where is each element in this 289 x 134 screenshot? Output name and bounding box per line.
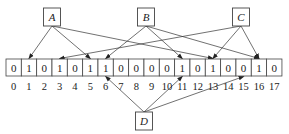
index-label: 8 xyxy=(134,81,139,92)
node-label: D xyxy=(139,115,148,127)
bit-value: 0 xyxy=(226,62,232,74)
index-label: 1 xyxy=(26,81,31,92)
index-label: 16 xyxy=(254,81,265,92)
bit-value: 1 xyxy=(210,62,216,74)
bit-value: 1 xyxy=(57,62,63,74)
bit-value: 1 xyxy=(256,62,262,74)
edge-c-to-3 xyxy=(60,26,241,59)
bit-cell: 1 xyxy=(21,59,36,76)
bit-array-diagram: 010101100001010010 012345678910111213141… xyxy=(0,0,289,134)
bit-value: 0 xyxy=(149,62,155,74)
edge-c-to-13 xyxy=(213,26,241,59)
index-label: 11 xyxy=(177,81,187,92)
index-label: 15 xyxy=(238,81,249,92)
bit-cell: 0 xyxy=(129,59,144,76)
edge-c-to-16 xyxy=(241,26,259,59)
edge-b-to-6 xyxy=(106,26,146,59)
bit-cell: 1 xyxy=(251,59,266,76)
index-label: 3 xyxy=(57,81,62,92)
bit-value: 0 xyxy=(134,62,140,74)
edge-a-to-1 xyxy=(29,26,52,59)
node-a: A xyxy=(44,8,61,26)
bit-cell: 1 xyxy=(83,59,98,76)
index-label: 10 xyxy=(162,81,173,92)
edge-a-to-13 xyxy=(52,26,213,59)
index-label: 6 xyxy=(103,81,108,92)
bit-value: 0 xyxy=(195,62,201,74)
index-label: 13 xyxy=(208,81,219,92)
index-label: 17 xyxy=(269,81,280,92)
bit-value: 0 xyxy=(42,62,48,74)
index-label: 2 xyxy=(42,81,47,92)
index-label: 7 xyxy=(118,81,123,92)
bit-cell: 0 xyxy=(67,59,82,76)
bit-cell: 0 xyxy=(190,59,205,76)
bit-value: 0 xyxy=(272,62,278,74)
node-b: B xyxy=(138,8,155,26)
index-label: 12 xyxy=(192,81,203,92)
index-label: 9 xyxy=(149,81,154,92)
bit-value: 1 xyxy=(180,62,186,74)
bit-value: 0 xyxy=(241,62,247,74)
index-label: 4 xyxy=(72,81,78,92)
bit-cell: 0 xyxy=(6,59,21,76)
bit-value: 1 xyxy=(88,62,94,74)
node-label: A xyxy=(48,11,56,23)
index-label: 5 xyxy=(88,81,93,92)
index-labels: 01234567891011121314151617 xyxy=(11,81,279,92)
index-label: 0 xyxy=(11,81,16,92)
bit-cell: 1 xyxy=(98,59,113,76)
edge-b-to-16 xyxy=(146,26,259,59)
bit-cell: 0 xyxy=(113,59,128,76)
node-label: C xyxy=(237,11,245,23)
index-label: 14 xyxy=(223,81,234,92)
bit-cell: 1 xyxy=(175,59,190,76)
bit-value: 0 xyxy=(118,62,124,74)
bit-cell: 0 xyxy=(159,59,174,76)
bit-value: 0 xyxy=(164,62,170,74)
node-label: B xyxy=(143,11,150,23)
bit-value: 0 xyxy=(72,62,78,74)
bit-cell: 1 xyxy=(205,59,220,76)
node-c: C xyxy=(233,8,250,26)
bit-cell: 0 xyxy=(221,59,236,76)
bit-cell: 0 xyxy=(37,59,52,76)
bit-value: 0 xyxy=(11,62,17,74)
bit-cell: 1 xyxy=(52,59,67,76)
bit-value: 1 xyxy=(26,62,32,74)
bit-cell: 0 xyxy=(267,59,282,76)
bit-array: 010101100001010010 xyxy=(6,59,282,76)
bit-cell: 0 xyxy=(144,59,159,76)
node-d: D xyxy=(136,112,153,130)
bit-value: 1 xyxy=(103,62,109,74)
bit-cell: 0 xyxy=(236,59,251,76)
edge-a-to-5 xyxy=(52,26,90,59)
